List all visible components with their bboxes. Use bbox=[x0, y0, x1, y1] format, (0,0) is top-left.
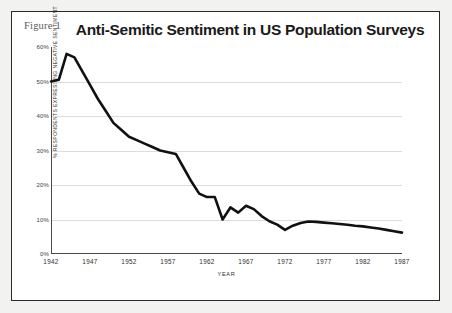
x-tick-label: 1977 bbox=[316, 258, 331, 265]
chart-title: Anti-Semitic Sentiment in US Population … bbox=[74, 21, 426, 39]
figure-frame: Figure 1 Anti-Semitic Sentiment in US Po… bbox=[11, 11, 440, 301]
x-tick-label: 1982 bbox=[355, 258, 370, 265]
data-series-line bbox=[51, 47, 402, 254]
x-tick-label: 1972 bbox=[277, 258, 292, 265]
y-tick-label: 20% bbox=[23, 182, 49, 188]
x-tick-label: 1942 bbox=[43, 258, 58, 265]
y-tick-label: 30% bbox=[23, 148, 49, 154]
x-tick-label: 1962 bbox=[199, 258, 214, 265]
y-tick-label: 0% bbox=[23, 251, 49, 257]
x-axis-tick-labels: 1942194719521957196219671972197719821987 bbox=[51, 258, 402, 270]
y-tick-label: 50% bbox=[23, 79, 49, 85]
x-axis-title: YEAR bbox=[51, 271, 402, 277]
x-tick-label: 1952 bbox=[121, 258, 136, 265]
y-tick-label: 60% bbox=[23, 44, 49, 50]
y-tick-label: 40% bbox=[23, 113, 49, 119]
x-tick-label: 1967 bbox=[238, 258, 253, 265]
x-tick-label: 1947 bbox=[82, 258, 97, 265]
x-tick-label: 1957 bbox=[160, 258, 175, 265]
y-tick-label: 10% bbox=[23, 217, 49, 223]
x-tick-label: 1987 bbox=[394, 258, 409, 265]
figure-page: Figure 1 Anti-Semitic Sentiment in US Po… bbox=[0, 0, 452, 313]
y-axis-tick-labels: 0%10%20%30%40%50%60% bbox=[19, 47, 49, 254]
plot-area bbox=[51, 47, 402, 254]
